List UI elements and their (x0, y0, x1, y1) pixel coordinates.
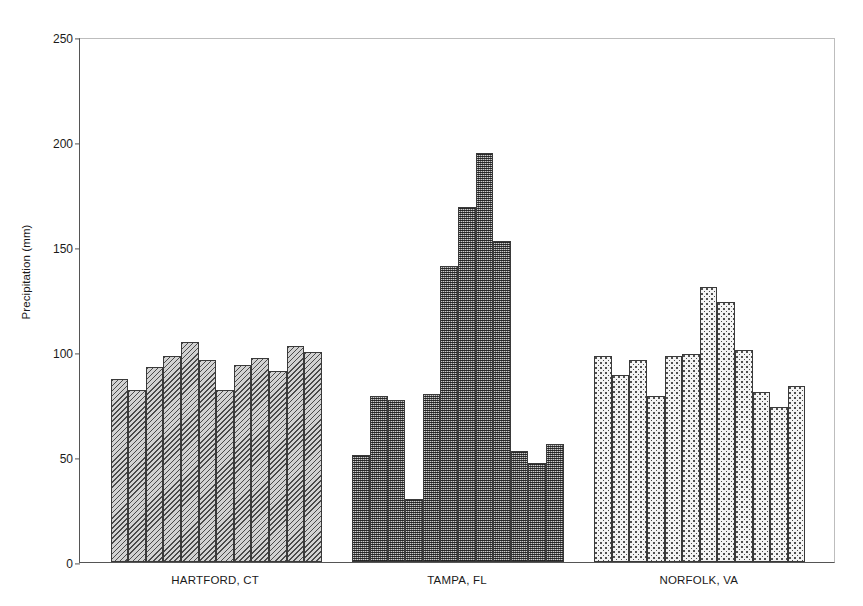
bar (753, 392, 771, 562)
bar (128, 390, 146, 562)
bar (405, 499, 423, 562)
bar (735, 350, 753, 562)
bar (629, 360, 647, 562)
group-label: TAMPA, FL (427, 574, 487, 586)
y-axis-tick-mark (75, 38, 80, 39)
bar (287, 346, 305, 562)
bar (181, 342, 199, 563)
bar (647, 396, 665, 562)
y-axis-tick-mark (75, 563, 80, 564)
bar (388, 400, 406, 562)
bar (546, 444, 564, 562)
bar (111, 379, 129, 562)
plot-area: 050100150200250 (79, 38, 835, 563)
bar (458, 207, 476, 562)
bar (493, 241, 511, 562)
bar (700, 287, 718, 562)
bar (352, 455, 370, 562)
bar (476, 153, 494, 563)
y-axis-tick-mark (75, 458, 80, 459)
bar (594, 356, 612, 562)
bar (370, 396, 388, 562)
bar (440, 266, 458, 562)
bar (423, 394, 441, 562)
bar (304, 352, 322, 562)
group-label: HARTFORD, CT (171, 574, 259, 586)
bar (665, 356, 683, 562)
bar (788, 386, 806, 562)
bar (146, 367, 164, 562)
bar (163, 356, 181, 562)
bar (511, 451, 529, 562)
bar (216, 390, 234, 562)
bar (770, 407, 788, 562)
group-label: NORFOLK, VA (659, 574, 738, 586)
bar (251, 358, 269, 562)
bar (612, 375, 630, 562)
y-axis-tick-mark (75, 248, 80, 249)
bar (269, 371, 287, 562)
y-axis-title: Precipitation (mm) (20, 192, 32, 352)
precipitation-bar-chart: Precipitation (mm) 050100150200250 HARTF… (0, 0, 863, 606)
bar (199, 360, 217, 562)
bar (682, 354, 700, 562)
bar (234, 365, 252, 562)
bar (528, 463, 546, 562)
bar (717, 302, 735, 562)
y-axis-tick-mark (75, 353, 80, 354)
y-axis-tick-mark (75, 143, 80, 144)
bars-container (80, 39, 834, 562)
